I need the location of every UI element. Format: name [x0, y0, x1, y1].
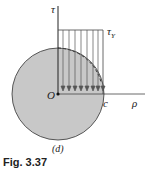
origin-dot [56, 92, 59, 95]
figure-caption: Fig. 3.37 [3, 156, 47, 168]
subfigure-label: (d) [52, 144, 64, 154]
tau-y-label: τY [107, 26, 115, 40]
torsion-diagram [0, 0, 151, 173]
tau-axis-label: τ [51, 4, 55, 15]
rho-axis-label: ρ [132, 98, 137, 109]
yield-subscript: Y [111, 32, 115, 40]
c-label: c [103, 98, 108, 109]
origin-label: O [47, 90, 55, 101]
